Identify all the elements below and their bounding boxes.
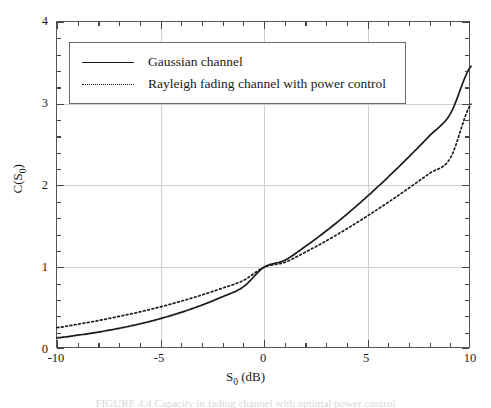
y-tick-major-3 [57, 104, 64, 105]
figure-caption: FIGURE 4.4 Capacity in fading channel wi… [0, 397, 491, 408]
y-tick-minor-right [465, 153, 469, 154]
figure-container: C(S0) 0 1 2 3 4 -10 -5 0 5 10 S0 (dB) [0, 0, 491, 408]
x-tick-major-10 [469, 340, 470, 347]
x-tick-minor [223, 343, 224, 347]
y-tick-minor-right [465, 316, 469, 317]
x-tick-label-0: 0 [240, 352, 286, 364]
x-tick-minor [388, 343, 389, 347]
x-tick-minor-top [140, 22, 141, 26]
x-axis-title-unit: (dB) [238, 369, 265, 384]
y-tick-major-right-4 [462, 22, 469, 23]
y-tick-minor [57, 120, 61, 121]
x-tick-minor [305, 343, 306, 347]
x-tick-label-5: 5 [343, 352, 389, 364]
x-tick-minor-top [243, 22, 244, 26]
y-tick-label-3: 3 [14, 97, 48, 109]
x-tick-minor [430, 343, 431, 347]
y-tick-major-1 [57, 267, 64, 268]
x-tick-minor [347, 343, 348, 347]
y-tick-major-0 [57, 348, 64, 349]
y-tick-minor [57, 153, 61, 154]
y-tick-minor [57, 55, 61, 56]
x-tick-minor [202, 343, 203, 347]
y-tick-minor [57, 218, 61, 219]
y-tick-minor [57, 136, 61, 137]
x-tick-minor [140, 343, 141, 347]
x-tick-minor-top [326, 22, 327, 26]
y-tick-minor-right [465, 136, 469, 137]
x-tick-label-10: 10 [447, 352, 491, 364]
x-tick-minor [78, 343, 79, 347]
x-tick-minor [326, 343, 327, 347]
y-tick-minor [57, 38, 61, 39]
y-axis-title-close: ) [10, 164, 25, 168]
x-tick-minor-top [181, 22, 182, 26]
legend-line-sample-solid-icon [80, 56, 136, 68]
y-tick-minor-right [465, 235, 469, 236]
x-tick-minor-top [119, 22, 120, 26]
x-axis-title: S0 (dB) [0, 369, 491, 387]
y-tick-minor [57, 87, 61, 88]
x-tick-major-5 [368, 340, 369, 347]
legend-entry-rayleigh: Rayleigh fading channel with power contr… [80, 75, 386, 93]
x-tick-minor-top [98, 22, 99, 26]
y-tick-minor-right [465, 71, 469, 72]
y-tick-major-right-0 [462, 348, 469, 349]
curve-rayleigh-power-control [57, 104, 471, 327]
y-tick-minor-right [465, 202, 469, 203]
x-tick-major-top-m5 [161, 22, 162, 29]
legend-label-rayleigh: Rayleigh fading channel with power contr… [148, 76, 386, 92]
x-tick-minor-top [223, 22, 224, 26]
x-tick-minor-top [305, 22, 306, 26]
x-tick-major-m10 [57, 340, 58, 347]
legend-box: Gaussian channel Rayleigh fading channel… [69, 42, 406, 104]
y-tick-minor-right [465, 218, 469, 219]
y-axis-title-sub: 0 [18, 168, 28, 173]
x-tick-minor-top [202, 22, 203, 26]
y-tick-minor-right [465, 87, 469, 88]
y-tick-minor-right [465, 169, 469, 170]
y-tick-label-4: 4 [14, 15, 48, 27]
y-tick-major-right-2 [462, 185, 469, 186]
x-tick-minor [181, 343, 182, 347]
x-tick-major-top-0 [264, 22, 265, 29]
y-tick-minor [57, 333, 61, 334]
y-tick-minor [57, 235, 61, 236]
y-tick-minor [57, 251, 61, 252]
y-tick-minor [57, 202, 61, 203]
curve-gaussian-channel [57, 66, 471, 338]
y-tick-major-right-1 [462, 267, 469, 268]
x-tick-minor-top [430, 22, 431, 26]
y-tick-minor-right [465, 300, 469, 301]
y-tick-major-right-3 [462, 104, 469, 105]
x-tick-minor-top [388, 22, 389, 26]
y-tick-minor [57, 169, 61, 170]
x-tick-minor-top [450, 22, 451, 26]
y-tick-minor [57, 284, 61, 285]
y-tick-minor [57, 71, 61, 72]
y-tick-major-2 [57, 185, 64, 186]
y-tick-minor [57, 316, 61, 317]
x-tick-minor [98, 343, 99, 347]
y-tick-minor-right [465, 120, 469, 121]
x-tick-minor-top [409, 22, 410, 26]
x-tick-minor [450, 343, 451, 347]
x-tick-minor-top [347, 22, 348, 26]
x-tick-major-top-5 [368, 22, 369, 29]
x-tick-minor [243, 343, 244, 347]
x-tick-label-m5: -5 [136, 352, 182, 364]
x-tick-major-m5 [161, 340, 162, 347]
y-tick-minor-right [465, 284, 469, 285]
y-tick-minor-right [465, 55, 469, 56]
x-tick-minor [119, 343, 120, 347]
y-tick-minor-right [465, 251, 469, 252]
x-tick-label-m10: -10 [33, 352, 79, 364]
x-tick-major-top-m10 [57, 22, 58, 29]
x-tick-major-0 [264, 340, 265, 347]
x-tick-minor-top [285, 22, 286, 26]
y-tick-minor-right [465, 38, 469, 39]
legend-entry-gaussian: Gaussian channel [80, 53, 243, 71]
y-tick-minor-right [465, 333, 469, 334]
x-tick-minor [285, 343, 286, 347]
plot-area: Gaussian channel Rayleigh fading channel… [56, 21, 470, 348]
